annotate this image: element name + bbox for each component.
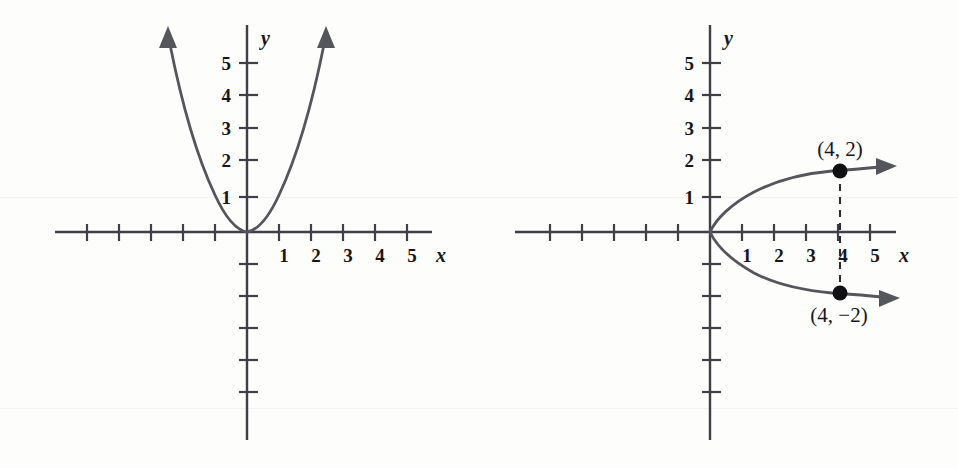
- left-y-tick-label-3: 3: [222, 118, 232, 139]
- point-marker-4-neg2: [833, 286, 848, 301]
- left-x-tick-label-4: 4: [375, 245, 385, 266]
- left-x-tick-label-2: 2: [311, 245, 321, 266]
- right-y-tick-label-3: 3: [685, 118, 695, 139]
- point-marker-4-2: [833, 164, 848, 179]
- left-x-axis-label: x: [435, 244, 446, 266]
- left-x-tick-label-3: 3: [343, 245, 353, 266]
- left-curve-arrowhead-left: [159, 26, 177, 48]
- right-y-tick-label-2: 2: [685, 150, 695, 171]
- right-x-tick-label-3: 3: [806, 245, 816, 266]
- point-label-4-neg2: (4, −2): [810, 303, 867, 327]
- right-x-tick-label-2: 2: [774, 245, 784, 266]
- left-y-tick-label-2: 2: [222, 150, 232, 171]
- right-y-tick-label-1: 1: [685, 187, 695, 208]
- left-curve-arrowhead-right: [317, 26, 335, 48]
- right-x-tick-label-5: 5: [870, 245, 880, 266]
- right-curve-arrowhead-lower: [879, 290, 900, 307]
- left-y-tick-label-1: 1: [222, 187, 232, 208]
- right-graph-panel: 5 4 3 2 1 1 2 3 4 5 x y (4, 2) (4, −2): [479, 0, 958, 468]
- left-y-axis-label: y: [259, 27, 270, 50]
- point-label-4-2: (4, 2): [817, 137, 863, 161]
- left-y-tick-label-4: 4: [222, 85, 232, 106]
- right-curve-arrowhead-upper: [876, 158, 897, 175]
- right-y-tick-label-4: 4: [685, 85, 695, 106]
- right-y-axis-label: y: [722, 27, 733, 50]
- figure-root: 5 4 3 2 1 1 2 3 4 5 x y: [0, 0, 958, 468]
- left-x-tick-label-1: 1: [279, 245, 289, 266]
- left-x-tick-label-5: 5: [407, 245, 417, 266]
- right-y-tick-label-5: 5: [685, 53, 695, 74]
- left-graph-panel: 5 4 3 2 1 1 2 3 4 5 x y: [0, 0, 479, 468]
- right-x-tick-label-1: 1: [742, 245, 752, 266]
- left-y-tick-label-5: 5: [222, 53, 232, 74]
- right-graph-svg: 5 4 3 2 1 1 2 3 4 5 x y (4, 2) (4, −2): [479, 0, 958, 468]
- right-x-tick-label-4: 4: [838, 245, 848, 266]
- left-graph-svg: 5 4 3 2 1 1 2 3 4 5 x y: [0, 0, 479, 468]
- right-x-axis-label: x: [898, 244, 909, 266]
